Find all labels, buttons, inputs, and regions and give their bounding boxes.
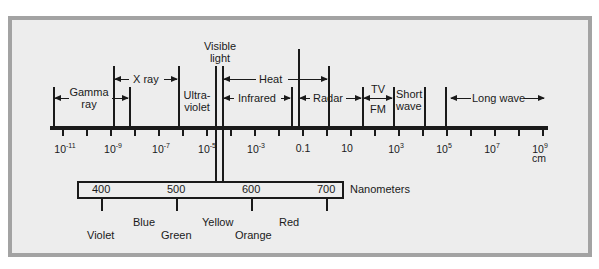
shortwave-label: Shortwave — [396, 88, 422, 112]
nm-tick — [176, 197, 178, 211]
infrared-left-arrow — [224, 98, 234, 99]
color-red-label: Red — [279, 216, 299, 228]
axis-tick — [326, 130, 328, 136]
axis-tick — [542, 130, 544, 136]
nm-tick-label: 500 — [167, 183, 185, 195]
axis-tick — [134, 130, 136, 136]
tick-label: 10-11 — [54, 142, 75, 155]
heat-label: Heat — [259, 73, 282, 85]
radar-label: Radar — [313, 92, 343, 104]
visible-light-label: Visiblelight — [200, 40, 240, 64]
tv-fm-arrow — [364, 98, 392, 99]
gamma-left-boundary — [53, 87, 55, 127]
xray-left-arrow — [115, 79, 129, 80]
visible-right-line — [222, 66, 224, 182]
nanometer-scale-box — [77, 181, 344, 199]
infrared-right-boundary — [291, 87, 293, 127]
axis-tick — [494, 130, 496, 136]
tick-label: 0.1 — [296, 142, 311, 154]
infrared-label: Infrared — [238, 92, 276, 104]
diagram-frame — [8, 16, 592, 257]
axis-tick — [110, 130, 112, 136]
axis-tick — [278, 130, 280, 136]
gamma-ray-label: Gammaray — [66, 86, 112, 110]
heat-right-arrow — [288, 79, 327, 80]
ultraviolet-label: Ultra-violet — [180, 89, 214, 113]
shortwave-left-boundary — [393, 87, 395, 127]
axis-tick — [230, 130, 232, 136]
tv-label: TV — [364, 83, 392, 95]
wavelength-axis — [50, 126, 548, 130]
heat-center-line — [298, 49, 300, 127]
longwave-right-arrow — [524, 98, 544, 99]
tick-label: 10 — [341, 142, 353, 154]
shortwave-right-boundary — [424, 87, 426, 127]
axis-tick — [62, 130, 64, 136]
nm-tick-label: 400 — [92, 183, 110, 195]
radar-right-arrow — [346, 98, 361, 99]
tick-label: 103 — [388, 142, 404, 155]
axis-tick — [518, 130, 520, 136]
axis-unit-label: cm — [532, 152, 546, 164]
nm-tick — [101, 197, 103, 211]
xray-label: X ray — [133, 73, 159, 85]
axis-tick — [206, 130, 208, 136]
axis-tick — [470, 130, 472, 136]
axis-tick — [182, 130, 184, 136]
gamma-right-arrow — [112, 98, 128, 99]
tick-label: 10-9 — [104, 142, 122, 155]
longwave-label: Long wave — [472, 92, 525, 104]
axis-tick — [302, 130, 304, 136]
gamma-right-boundary — [129, 87, 131, 127]
gamma-left-arrow — [55, 98, 69, 99]
longwave-left-arrow — [451, 98, 471, 99]
axis-tick — [422, 130, 424, 136]
color-orange-label: Orange — [235, 229, 272, 241]
tick-label: 10-3 — [247, 142, 265, 155]
color-green-label: Green — [161, 229, 192, 241]
axis-tick — [254, 130, 256, 136]
visible-left-line — [215, 66, 217, 182]
color-violet-label: Violet — [87, 229, 114, 241]
nm-tick-label: 700 — [317, 183, 335, 195]
color-yellow-label: Yellow — [202, 216, 233, 228]
nm-tick — [251, 197, 253, 211]
fm-label: FM — [364, 103, 392, 115]
axis-tick — [446, 130, 448, 136]
axis-tick — [374, 130, 376, 136]
tick-label: 10-7 — [152, 142, 170, 155]
tick-label: 10-5 — [198, 142, 216, 155]
tick-label: 105 — [436, 142, 452, 155]
nm-tick — [326, 197, 328, 211]
axis-tick — [398, 130, 400, 136]
heat-left-arrow — [224, 79, 256, 80]
axis-tick — [158, 130, 160, 136]
longwave-left-boundary — [445, 87, 447, 127]
xray-right-arrow — [164, 79, 177, 80]
infrared-right-arrow — [281, 98, 290, 99]
color-blue-label: Blue — [133, 216, 155, 228]
axis-tick — [86, 130, 88, 136]
tick-label: 107 — [484, 142, 500, 155]
radar-left-arrow — [300, 98, 310, 99]
nm-tick-label: 600 — [242, 183, 260, 195]
nanometers-label: Nanometers — [350, 183, 410, 195]
axis-tick — [350, 130, 352, 136]
